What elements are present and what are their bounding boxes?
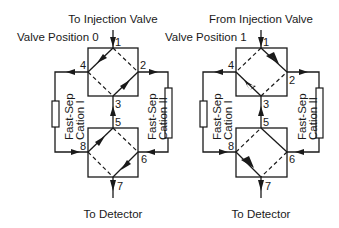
- flow-arrow-icon: [149, 69, 158, 75]
- port-4: 4: [80, 59, 86, 71]
- connection-1-2-inactive: [113, 48, 138, 72]
- column-cation-i: [52, 101, 59, 127]
- valve-bottom-box: [88, 128, 138, 177]
- flow-arrow-icon: [295, 149, 304, 155]
- connection-1-4-inactive: [236, 48, 261, 72]
- flow-arrow-icon: [121, 160, 131, 170]
- port-5: 5: [263, 116, 269, 128]
- port-6: 6: [141, 153, 147, 165]
- position-label: Valve Position 0: [17, 31, 99, 43]
- outlet-arrow-icon: [110, 180, 116, 191]
- diagram-position-0: To Injection Valve Valve Position 0 1 2 …: [17, 13, 172, 220]
- port-2: 2: [289, 74, 295, 86]
- port-1: 1: [115, 36, 121, 48]
- connection-5-6: [261, 128, 287, 152]
- position-label: Valve Position 1: [165, 31, 247, 43]
- column-left-label-2: Cation I: [222, 100, 234, 140]
- flow-arrow-icon: [219, 149, 228, 155]
- port-4: 4: [228, 59, 234, 71]
- column-left-label-2: Cation I: [74, 100, 86, 140]
- port-7: 7: [265, 180, 271, 192]
- flow-arrow-icon: [66, 69, 75, 75]
- flow-arrow-icon: [146, 149, 155, 155]
- valve-bottom-box: [236, 128, 287, 177]
- port-1: 1: [263, 36, 269, 48]
- flow-arrow-icon: [214, 69, 223, 75]
- connection-8-5-inactive: [236, 128, 261, 152]
- diagram-position-1: From Injection Valve Valve Position 1 1 …: [165, 13, 323, 220]
- column-cation-i: [200, 101, 207, 127]
- flow-arrow-icon: [241, 156, 254, 168]
- port-5: 5: [115, 116, 121, 128]
- port-2: 2: [140, 59, 146, 71]
- flow-arrow-icon: [71, 149, 80, 155]
- bottom-label: To Detector: [84, 208, 143, 220]
- valve-top-box: [236, 48, 287, 96]
- column-right-label-2: Cation II: [157, 97, 169, 140]
- port-3: 3: [263, 98, 269, 110]
- connection-6-7-inactive: [261, 152, 287, 177]
- column-right-label-2: Cation II: [307, 97, 319, 140]
- top-label: From Injection Valve: [209, 13, 313, 25]
- connection-5-6-inactive: [113, 128, 138, 152]
- top-label: To Injection Valve: [68, 13, 157, 25]
- valve-diagram: To Injection Valve Valve Position 0 1 2 …: [0, 0, 339, 228]
- port-8: 8: [80, 140, 86, 152]
- port-3: 3: [115, 98, 121, 110]
- port-8: 8: [228, 140, 234, 152]
- connection-8-7-inactive: [88, 152, 113, 177]
- valve-top-box: [88, 48, 138, 96]
- port-6: 6: [289, 153, 295, 165]
- outlet-arrow-icon: [258, 180, 264, 191]
- connection-4-3-inactive: [88, 72, 113, 96]
- flow-arrow-icon: [299, 69, 308, 75]
- bottom-label: To Detector: [232, 208, 291, 220]
- port-7: 7: [117, 180, 123, 192]
- connection-3-2-inactive: [261, 72, 287, 96]
